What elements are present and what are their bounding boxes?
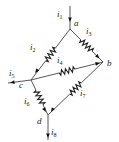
- circuit-diagram: i2i3i4i6i7i1i5i8abcd: [0, 0, 119, 142]
- wire: [48, 94, 70, 115]
- branch-i7: [48, 62, 103, 115]
- resistor-i4: [59, 67, 75, 75]
- current-label-i4: i4: [57, 55, 63, 66]
- current-label-i6: i6: [24, 96, 30, 107]
- wires: [8, 6, 103, 140]
- arrow-i1: [68, 18, 72, 23]
- node-label-d: d: [37, 116, 42, 126]
- arrow-i5: [10, 80, 15, 84]
- current-label-i7: i7: [80, 88, 86, 99]
- resistor-i6: [34, 90, 45, 104]
- node-label-b: b: [107, 58, 112, 68]
- arrow-i7: [51, 107, 55, 112]
- current-label-i2: i2: [30, 42, 36, 53]
- node-label-c: c: [19, 80, 23, 90]
- current-label-i1: i1: [57, 9, 63, 20]
- branch-i2: [31, 29, 70, 80]
- current-label-i5: i5: [9, 68, 15, 79]
- branch-i4: [31, 62, 103, 80]
- wire: [70, 29, 81, 40]
- current-label-i3: i3: [86, 26, 92, 37]
- arrow-i6: [42, 107, 46, 112]
- wire: [31, 80, 36, 90]
- wire: [55, 29, 70, 48]
- current-label-i8: i8: [51, 127, 57, 138]
- arrow-i8: [46, 134, 50, 139]
- resistor-i2: [45, 47, 55, 61]
- resistor-i3: [80, 40, 94, 51]
- node-label-a: a: [74, 18, 79, 28]
